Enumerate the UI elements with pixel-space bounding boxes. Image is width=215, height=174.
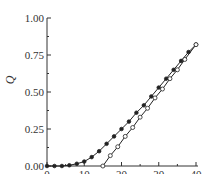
filled-marker xyxy=(105,142,109,146)
open-marker xyxy=(108,154,112,158)
filled-marker xyxy=(68,163,72,167)
filled-marker xyxy=(150,95,154,99)
filled-marker xyxy=(97,149,101,153)
x-tick-label: 10 xyxy=(79,168,91,174)
filled-marker xyxy=(75,162,79,166)
open-marker xyxy=(116,145,120,149)
line-chart: 0102030400.000.250.500.751.00tQ xyxy=(0,0,215,174)
filled-marker xyxy=(172,68,176,72)
x-tick-label: 20 xyxy=(116,168,128,174)
open-marker xyxy=(123,134,127,138)
filled-marker xyxy=(164,77,168,81)
x-tick-label: 0 xyxy=(44,168,50,174)
filled-marker xyxy=(120,127,124,131)
open-marker xyxy=(183,57,187,61)
y-tick-label: 0.00 xyxy=(25,160,45,172)
y-tick-label: 0.25 xyxy=(25,123,45,135)
open-marker xyxy=(101,164,105,168)
filled-marker xyxy=(112,135,116,139)
open-marker xyxy=(153,96,157,100)
open-marker xyxy=(168,77,172,81)
open-marker xyxy=(138,115,142,119)
open-marker xyxy=(175,68,179,72)
filled-marker xyxy=(142,104,146,108)
open-marker xyxy=(146,106,150,110)
x-tick-label: 30 xyxy=(153,168,165,174)
filled-marker xyxy=(53,164,57,168)
y-tick-label: 1.00 xyxy=(25,12,45,24)
y-axis-label: Q xyxy=(3,75,17,84)
y-tick-label: 0.75 xyxy=(25,49,45,61)
open-marker xyxy=(131,126,135,130)
filled-marker xyxy=(82,160,86,164)
open-marker xyxy=(194,43,198,47)
series-line xyxy=(47,45,196,166)
filled-marker xyxy=(127,120,131,124)
x-tick-label: 40 xyxy=(191,168,203,174)
filled-marker xyxy=(60,164,64,168)
filled-marker xyxy=(45,164,49,168)
filled-marker xyxy=(157,86,161,90)
open-marker xyxy=(160,87,164,91)
filled-marker xyxy=(90,155,94,159)
y-tick-label: 0.50 xyxy=(25,86,45,98)
filled-marker xyxy=(135,111,139,115)
